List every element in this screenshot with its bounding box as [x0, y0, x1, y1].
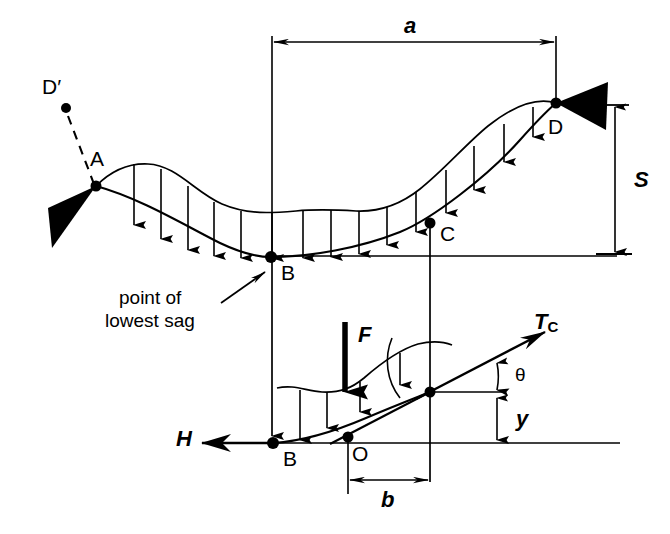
label-force-tc: TC [534, 311, 558, 334]
support-triangle-d [556, 82, 608, 130]
dot-c [425, 218, 436, 229]
lowest-sag-leader [221, 272, 265, 303]
distributed-load-arrows-lower [300, 353, 400, 440]
node-dots-upper [61, 98, 562, 264]
cable-diagram-figure: D′ A B C D a S point of lowest sag B O F… [0, 0, 670, 534]
label-o-point: O [352, 443, 368, 464]
lowest-sag-note-line2: lowest sag [105, 311, 195, 330]
label-force-h: H [176, 428, 192, 450]
label-a-point: A [90, 148, 104, 169]
label-b-point: B [281, 262, 295, 283]
angle-construction-arc [387, 338, 400, 398]
label-dimension-y: y [516, 408, 528, 430]
node-dots-lower [267, 387, 436, 450]
label-force-f: F [358, 324, 371, 346]
label-force-tc-subscript: C [547, 318, 558, 335]
support-triangle-a [48, 186, 96, 248]
dot-b [265, 251, 277, 263]
dot-d [551, 98, 562, 109]
load-envelope-curve-lower [277, 342, 452, 392]
dot-a [91, 181, 102, 192]
label-b-point-lower: B [283, 448, 297, 469]
label-dimension-s: S [634, 169, 649, 191]
label-dimension-a: a [404, 15, 416, 37]
dot-dprime [61, 103, 71, 113]
label-dimension-b: b [381, 489, 394, 511]
load-envelope-curve [96, 101, 556, 212]
dot-o [343, 432, 354, 443]
label-d-point: D [548, 116, 563, 137]
diagram-canvas [0, 0, 670, 534]
label-c-point: C [440, 223, 455, 244]
dot-cprime [425, 387, 436, 398]
label-angle-theta: θ [515, 365, 526, 384]
distributed-load-arrows-upper [134, 107, 533, 258]
angle-theta-arc [497, 363, 498, 390]
lowest-sag-note-line1: point of [119, 288, 181, 307]
label-force-tc-main: T [534, 309, 547, 334]
dot-b-lower [267, 437, 279, 449]
label-d-prime: D′ [42, 76, 61, 97]
